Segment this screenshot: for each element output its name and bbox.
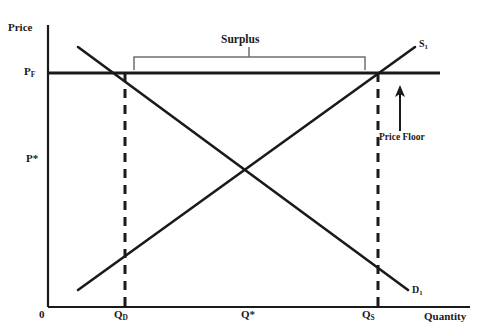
x-axis-title: Quantity bbox=[424, 311, 466, 322]
surplus-bracket bbox=[134, 57, 365, 70]
quantity-supplied-label-sub: S bbox=[371, 313, 375, 322]
price-floor-label-sub: F bbox=[31, 70, 36, 79]
supply-curve-label-main: S bbox=[419, 38, 425, 49]
price-floor-callout: Price Floor bbox=[379, 133, 425, 143]
price-floor-diagram: Price Quantity 0 PF P* QD Q* QS S1 D1 Su… bbox=[0, 0, 487, 334]
price-floor-label-main: P bbox=[24, 65, 31, 77]
surplus-annotation: Surplus bbox=[221, 34, 259, 46]
price-floor-label: PF bbox=[24, 66, 35, 77]
equilibrium-price-label: P* bbox=[26, 153, 38, 164]
quantity-supplied-label-main: Q bbox=[362, 308, 371, 320]
origin-label: 0 bbox=[39, 309, 45, 320]
quantity-demanded-label-main: Q bbox=[114, 308, 123, 320]
y-axis-title: Price bbox=[8, 22, 32, 33]
equilibrium-quantity-label: Q* bbox=[241, 309, 255, 320]
quantity-supplied-label: QS bbox=[362, 309, 375, 320]
supply-curve-label-sub: 1 bbox=[425, 43, 428, 50]
quantity-demanded-label-sub: D bbox=[123, 313, 128, 322]
demand-curve-label: D1 bbox=[412, 285, 423, 295]
demand-curve-label-sub: 1 bbox=[419, 289, 422, 296]
supply-curve-label: S1 bbox=[419, 39, 428, 49]
quantity-demanded-label: QD bbox=[114, 309, 128, 320]
